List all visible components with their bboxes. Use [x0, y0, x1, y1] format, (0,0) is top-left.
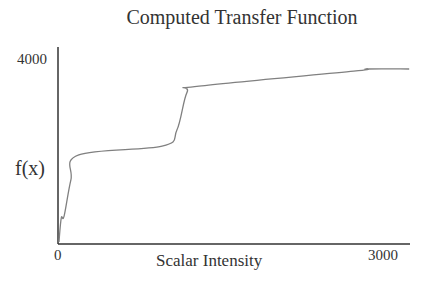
plot-area: [0, 0, 428, 284]
transfer-function-curve: [59, 69, 409, 242]
